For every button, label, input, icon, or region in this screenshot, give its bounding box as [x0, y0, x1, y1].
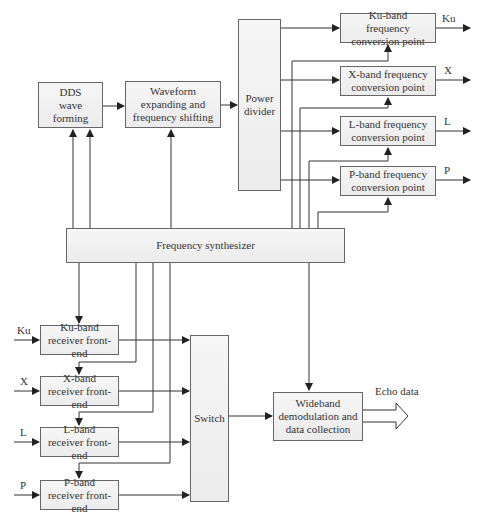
frequency-synthesizer-block: Frequency synthesizer	[66, 228, 345, 263]
l-band-conversion-block: L-band frequency conversion point	[340, 116, 436, 146]
l-band-receiver-block: L-band receiver front-end	[40, 427, 119, 457]
waveform-expanding-block: Waveform expanding and frequency shiftin…	[125, 81, 221, 128]
x-input-label: X	[20, 375, 28, 387]
l-input-label: L	[20, 426, 27, 438]
p-input-label: P	[20, 479, 26, 491]
x-band-receiver-block: X-band receiver front-end	[40, 376, 119, 406]
ku-input-label: Ku	[17, 324, 30, 336]
echo-data-label: Echo data	[375, 385, 419, 397]
ku-output-label: Ku	[442, 12, 455, 24]
ku-band-conversion-block: Ku-band frequency conversion point	[340, 13, 436, 43]
echo-data-arrow	[363, 403, 408, 429]
p-band-receiver-block: P-band receiver front-end	[40, 480, 119, 510]
wideband-demodulation-block: Wideband demodulation and data collectio…	[273, 392, 363, 441]
switch-block: Switch	[190, 335, 229, 502]
x-band-conversion-block: X-band frequency conversion point	[340, 66, 436, 96]
ku-band-receiver-block: Ku-band receiver front-end	[40, 325, 119, 355]
l-output-label: L	[444, 115, 451, 127]
p-output-label: P	[444, 164, 450, 176]
p-band-conversion-block: P-band frequency conversion point	[340, 166, 436, 196]
dds-wave-forming-block: DDS wave forming	[38, 82, 103, 128]
x-output-label: X	[444, 64, 452, 76]
power-divider-block: Power divider	[238, 19, 281, 191]
